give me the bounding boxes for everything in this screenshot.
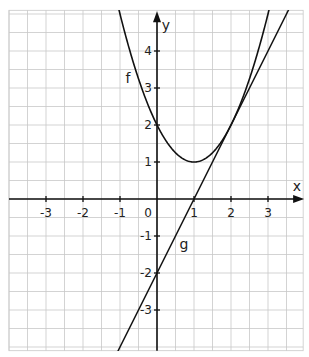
curves	[116, 0, 294, 354]
x-tick-label: 2	[227, 206, 235, 220]
grid-lines	[9, 10, 303, 350]
function-graph: -3-2-11234321-1-2-30 xyfg	[0, 0, 309, 357]
y-axis-arrow-icon	[153, 11, 161, 22]
axes	[9, 11, 304, 350]
origin-label: 0	[144, 206, 152, 220]
y-tick-label: 3	[144, 81, 152, 95]
y-tick-label: -3	[140, 303, 152, 317]
y-tick-label: 4	[144, 44, 152, 58]
line-g	[116, 0, 294, 354]
x-tick-label: 1	[190, 206, 198, 220]
x-axis-label: x	[293, 178, 301, 194]
f-label: f	[126, 70, 132, 86]
x-tick-label: -1	[114, 206, 126, 220]
y-tick-label: 1	[144, 155, 152, 169]
x-tick-label: -3	[40, 206, 52, 220]
g-label: g	[180, 236, 189, 252]
x-axis-arrow-icon	[293, 195, 304, 203]
y-tick-label: -2	[140, 266, 152, 280]
y-tick-label: -1	[140, 229, 152, 243]
y-axis-label: y	[162, 17, 170, 33]
x-tick-label: 3	[264, 206, 272, 220]
x-tick-label: -2	[77, 206, 89, 220]
y-tick-label: 2	[144, 118, 152, 132]
